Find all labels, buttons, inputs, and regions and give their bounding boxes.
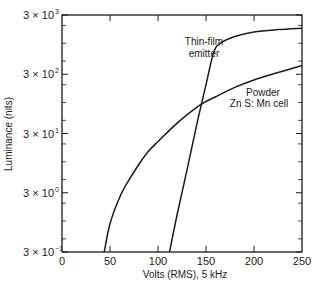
y-tick-label: 3 × 10 xyxy=(23,68,54,80)
y-tick-exponent: 1 xyxy=(55,127,59,134)
y-tick-label: 3 × 10 xyxy=(23,246,54,258)
powder-label: Zn S: Mn cell xyxy=(230,98,288,109)
y-tick-exponent: 2 xyxy=(55,67,59,74)
curve-annotations: Thin-filmemitterPowderZn S: Mn cell xyxy=(185,36,288,109)
powder-label: Powder xyxy=(246,87,281,98)
luminance-voltage-chart: 3 × 10−13 × 1003 × 1013 × 1023 × 103 050… xyxy=(0,0,316,286)
y-tick-exponent: −1 xyxy=(55,245,63,252)
thin-film-label: Thin-film xyxy=(185,36,223,47)
y-tick-label: 3 × 10 xyxy=(23,128,54,140)
x-tick-label: 150 xyxy=(197,255,215,267)
y-tick-label: 3 × 10 xyxy=(23,187,54,199)
data-curves xyxy=(104,28,302,252)
axis-ticks xyxy=(62,15,302,252)
thin-film-curve xyxy=(170,28,302,252)
y-tick-exponent: 0 xyxy=(55,186,59,193)
x-tick-label: 250 xyxy=(293,255,311,267)
y-tick-exponent: 3 xyxy=(55,8,59,15)
y-tick-labels: 3 × 10−13 × 1003 × 1013 × 1023 × 103 xyxy=(23,8,63,258)
x-tick-label: 100 xyxy=(149,255,167,267)
x-tick-label: 0 xyxy=(59,255,65,267)
y-tick-label: 3 × 10 xyxy=(23,9,54,21)
x-tick-label: 200 xyxy=(245,255,263,267)
x-tick-labels: 050100150200250 xyxy=(59,255,311,267)
plot-frame xyxy=(62,15,302,252)
thin-film-label: emitter xyxy=(189,48,220,59)
x-axis-title: Volts (RMS), 5 kHz xyxy=(143,269,227,280)
y-axis-title: Luminance (nits) xyxy=(3,97,14,171)
x-tick-label: 50 xyxy=(104,255,116,267)
